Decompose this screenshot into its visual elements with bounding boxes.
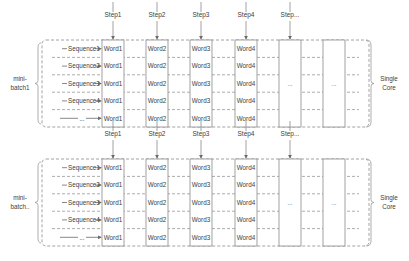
- left-brace-icon: [35, 43, 41, 124]
- step-label: Step2: [149, 11, 166, 19]
- word-cell: Word4: [237, 80, 256, 87]
- word-cell: Word1: [104, 234, 123, 241]
- minibatch-label: mini-: [13, 75, 27, 82]
- word-cell: Word1: [104, 45, 123, 52]
- word-cell: Word2: [148, 216, 167, 223]
- word-cell: Word1: [104, 181, 123, 188]
- word-cell: Word4: [237, 216, 256, 223]
- word-cell: Word1: [104, 216, 123, 223]
- step-label: Step3: [193, 130, 210, 138]
- core-label: Single: [380, 75, 398, 83]
- word-cell: Word2: [148, 234, 167, 241]
- minibatch-label: mini-: [13, 194, 27, 201]
- word-cell: Word2: [148, 62, 167, 69]
- word-cell: Word3: [192, 97, 211, 104]
- word-cell: Word3: [192, 181, 211, 188]
- word-cell: Word1: [104, 62, 123, 69]
- left-brace-icon: [35, 162, 41, 243]
- minibatch-block-1: Step1Step2Step3Step4Step...Word1Word1Wor…: [11, 2, 399, 127]
- step-label: Step2: [149, 130, 166, 138]
- core-label: Core: [382, 203, 396, 210]
- word-cell: Word4: [237, 199, 256, 206]
- core-label: Core: [382, 84, 396, 91]
- word-cell: Word4: [237, 115, 256, 122]
- step-label: Step...: [281, 130, 300, 138]
- word-cell: Word3: [192, 199, 211, 206]
- ellipsis-cell: ...: [287, 81, 292, 87]
- ellipsis-cell: ...: [287, 200, 292, 206]
- right-brace-icon: [366, 159, 374, 246]
- step-label: Step4: [238, 130, 255, 138]
- word-cell: Word4: [237, 234, 256, 241]
- word-cell: Word2: [148, 115, 167, 122]
- step-label: Step3: [193, 11, 210, 19]
- minibatch-label: batch1: [11, 84, 30, 91]
- minibatch-diagram: Step1Step2Step3Step4Step...Word1Word1Wor…: [0, 0, 409, 261]
- minibatch-block-2: Step1Step2Step3Step4Step...Word1Word1Wor…: [11, 121, 399, 246]
- word-cell: Word4: [237, 62, 256, 69]
- word-cell: Word2: [148, 164, 167, 171]
- word-cell: Word4: [237, 181, 256, 188]
- ellipsis-cell: ...: [331, 81, 336, 87]
- word-cell: Word3: [192, 80, 211, 87]
- word-cell: Word4: [237, 164, 256, 171]
- word-cell: Word2: [148, 45, 167, 52]
- word-cell: Word3: [192, 164, 211, 171]
- core-label: Single: [380, 194, 398, 202]
- word-cell: Word3: [192, 234, 211, 241]
- word-cell: Word3: [192, 216, 211, 223]
- word-cell: Word1: [104, 115, 123, 122]
- word-cell: Word3: [192, 62, 211, 69]
- word-cell: Word3: [192, 45, 211, 52]
- ellipsis-cell: ...: [331, 200, 336, 206]
- word-cell: Word2: [148, 80, 167, 87]
- word-cell: Word4: [237, 97, 256, 104]
- word-cell: Word2: [148, 97, 167, 104]
- word-cell: Word3: [192, 115, 211, 122]
- word-cell: Word4: [237, 45, 256, 52]
- word-cell: Word2: [148, 181, 167, 188]
- right-brace-icon: [366, 40, 374, 127]
- step-label: Step4: [238, 11, 255, 19]
- step-label: Step1: [105, 11, 122, 19]
- sequence-label: ...: [79, 234, 84, 241]
- word-cell: Word1: [104, 97, 123, 104]
- word-cell: Word2: [148, 199, 167, 206]
- word-cell: Word1: [104, 164, 123, 171]
- minibatch-label: batch..: [11, 203, 30, 210]
- step-label: Step1: [105, 130, 122, 138]
- word-cell: Word1: [104, 199, 123, 206]
- sequence-label: ...: [79, 115, 84, 122]
- step-label: Step...: [281, 11, 300, 19]
- word-cell: Word1: [104, 80, 123, 87]
